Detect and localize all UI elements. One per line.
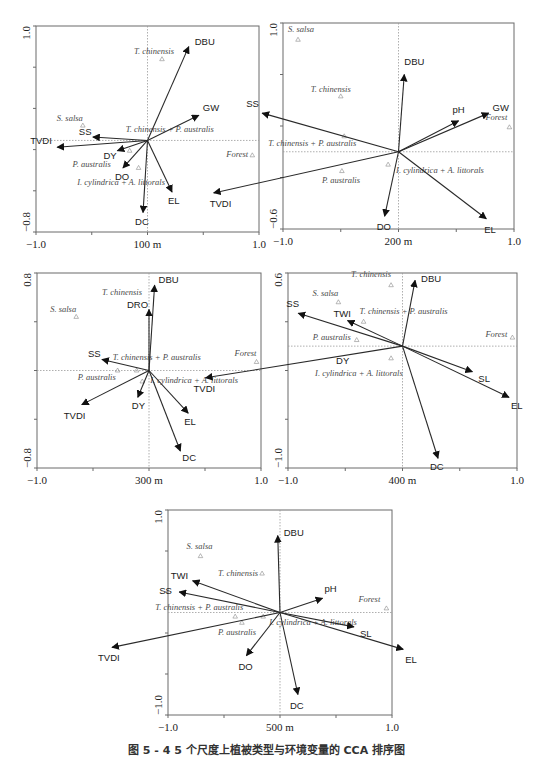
env-variable-label: GW [493,102,509,113]
species-label: P. australis [77,372,117,382]
species-marker-triangle-icon [361,319,366,323]
scale-label: 500 m [266,721,294,733]
env-variable-label: DBU [421,273,441,284]
species-label: P. australis [321,175,361,185]
species-label: Forest [357,594,381,604]
env-vector-arrow-icon [348,321,403,347]
species-label: T. chinensis [102,287,143,297]
y-axis-max-label: 1.0 [267,23,279,37]
scale-label: 100 m [134,238,162,250]
env-variable-label: DC [430,461,444,472]
x-axis-max-label: 1.0 [507,235,521,247]
env-variable-label: DO [115,171,129,182]
env-variable-label: DBU [284,527,304,538]
species-label: T. chinensis + P. australis [113,352,202,362]
env-vector-arrow-icon [385,152,399,216]
x-axis-min-label: −1.0 [26,238,46,250]
env-variable-label: TVDI [210,198,232,209]
scale-label: 200 m [385,235,413,247]
env-variable-label: EL [405,654,417,665]
species-label: T. chinensis [134,46,175,56]
species-label: P. australis [312,332,352,342]
env-variable-label: TWI [171,570,188,581]
y-axis-min-label: −0.8 [20,212,32,232]
cca-panel-100m: −1.0100 m1.01.0−0.8T. chinensisS. salsaT… [20,26,266,251]
env-variable-label: EL [484,224,496,235]
env-vector-arrow-icon [138,371,149,398]
cca-panel-500m: −1.0500 m1.01.0−1.0S. salsaT. chinensisT… [98,510,417,734]
env-variable-label: EL [184,416,196,427]
x-axis-min-label: −1.0 [158,721,178,733]
env-vector-arrow-icon [403,346,509,397]
cca-panel-400m: −1.0400 m1.00.6−1.0T. chinensisS. salsaT… [194,269,525,486]
env-variable-label: pH [453,104,465,115]
species-marker-triangle-icon [260,571,265,575]
x-axis-max-label: 1.0 [510,474,524,486]
env-vector-arrow-icon [403,346,473,372]
env-variable-label: SS [88,348,101,359]
env-variable-label: SS [246,98,259,109]
species-marker-triangle-icon [198,554,203,558]
species-marker-triangle-icon [254,359,259,363]
species-marker-triangle-icon [136,165,141,169]
env-variable-label: TVDI [64,410,86,421]
env-variable-label: TVDI [98,652,120,663]
species-marker-triangle-icon [510,335,515,339]
species-marker-triangle-icon [338,94,343,98]
species-label: T. chinensis [218,568,259,578]
cca-panel-300m: −1.0300 m1.00.8−0.8T. chinensisS. salsaT… [21,273,268,487]
scale-label: 400 m [389,474,417,486]
species-label: S. salsa [312,288,338,298]
env-variable-label: SS [159,585,172,596]
species-label: S. salsa [57,113,83,123]
env-variable-label: DBU [195,36,215,47]
species-marker-triangle-icon [127,148,132,152]
species-label: Forest [484,329,508,339]
env-variable-label: DC [182,452,196,463]
x-axis-min-label: −1.0 [278,474,298,486]
env-variable-label: SS [286,298,299,309]
species-label: I. cylindrica + A. littorals [314,368,403,378]
env-variable-label: DC [135,216,149,227]
species-label: T. chinensis + P. australis [268,138,357,148]
y-axis-min-label: −1.0 [272,448,284,468]
species-label: Forest [225,149,249,159]
env-variable-label: DY [103,150,117,161]
env-variable-label: EL [511,400,523,411]
env-variable-label: SS [79,126,92,137]
species-marker-triangle-icon [389,356,394,360]
x-axis-min-label: −1.0 [27,474,47,486]
species-marker-triangle-icon [296,37,301,41]
species-marker-triangle-icon [340,169,345,173]
species-marker-triangle-icon [507,125,512,129]
env-vector-arrow-icon [280,598,323,612]
y-axis-max-label: 0.6 [272,273,284,287]
species-label: T. chinensis + P. australis [360,306,449,316]
species-label: T. chinensis [311,84,352,94]
species-marker-triangle-icon [160,57,165,61]
cca-panel-200m: −1.0200 m1.01.0−0.6S. salsaT. chinensisT… [210,23,522,248]
y-axis-max-label: 1.0 [20,26,32,40]
env-variable-label: DBU [159,274,179,285]
env-variable-label: DRO [127,299,148,310]
species-label: S. salsa [288,24,314,34]
env-variable-label: TWI [334,308,351,319]
x-axis-max-label: 1.0 [385,721,399,733]
env-variable-label: SL [478,373,490,384]
species-label: P. australis [217,627,257,637]
env-variable-label: TVDI [30,135,52,146]
env-variable-label: GW [203,102,219,113]
species-marker-triangle-icon [386,162,391,166]
env-variable-label: DO [238,661,252,672]
y-axis-min-label: −0.6 [267,209,279,229]
species-marker-triangle-icon [336,300,341,304]
species-marker-triangle-icon [74,314,79,318]
scale-label: 300 m [135,474,163,486]
species-marker-triangle-icon [233,614,238,618]
species-label: T. chinensis [351,269,392,279]
species-marker-triangle-icon [384,606,389,610]
env-vector-arrow-icon [399,152,487,219]
species-marker-triangle-icon [250,153,255,157]
env-vector-arrow-icon [57,140,147,147]
